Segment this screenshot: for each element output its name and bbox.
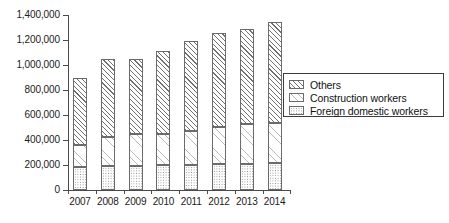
- legend-label: Foreign domestic workers: [310, 105, 428, 117]
- segment-construction-workers: [129, 134, 143, 166]
- segment-others: [73, 78, 87, 145]
- x-axis-tick: [96, 190, 97, 194]
- bar-2009: [129, 15, 143, 190]
- segment-construction-workers: [101, 137, 115, 166]
- bar-2013: [240, 15, 254, 190]
- x-axis-label-2014: 2014: [260, 196, 290, 207]
- y-axis-tick: [63, 140, 68, 141]
- y-axis-tick-label: 800,000: [0, 85, 60, 95]
- segment-foreign-domestic-workers: [268, 163, 282, 190]
- legend-label: Others: [310, 79, 341, 91]
- chart-legend: OthersConstruction workersForeign domest…: [283, 73, 444, 117]
- x-axis-tick: [290, 190, 291, 194]
- bar-2011: [184, 15, 198, 190]
- x-axis-tick: [68, 190, 69, 194]
- y-axis-tick: [63, 65, 68, 66]
- x-axis-label-2010: 2010: [148, 196, 178, 207]
- bar-2008: [101, 15, 115, 190]
- y-axis-tick-label: 400,000: [0, 135, 60, 145]
- segment-foreign-domestic-workers: [101, 166, 115, 190]
- y-axis-tick-label: 1,000,000: [0, 60, 60, 70]
- x-axis-label-2007: 2007: [65, 196, 95, 207]
- segment-construction-workers: [156, 134, 170, 166]
- x-axis-label-2011: 2011: [176, 196, 206, 207]
- segment-others: [129, 59, 143, 134]
- y-axis-tick: [63, 40, 68, 41]
- x-axis-tick: [124, 190, 125, 194]
- bar-2012: [212, 15, 226, 190]
- segment-foreign-domestic-workers: [184, 165, 198, 190]
- y-axis-tick-label: 200,000: [0, 160, 60, 170]
- x-axis-label-2009: 2009: [121, 196, 151, 207]
- segment-construction-workers: [184, 131, 198, 165]
- segment-construction-workers: [73, 145, 87, 167]
- segment-construction-workers: [212, 127, 226, 164]
- segment-foreign-domestic-workers: [73, 167, 87, 190]
- segment-others: [240, 29, 254, 124]
- segment-construction-workers: [240, 124, 254, 164]
- x-axis-tick: [235, 190, 236, 194]
- segment-others: [156, 51, 170, 134]
- segment-foreign-domestic-workers: [129, 166, 143, 190]
- y-axis-tick: [63, 15, 68, 16]
- segment-construction-workers: [268, 123, 282, 163]
- legend-swatch-icon: [289, 93, 304, 102]
- y-axis-tick: [63, 115, 68, 116]
- x-axis-tick: [263, 190, 264, 194]
- y-axis-line: [68, 15, 69, 191]
- x-axis-tick: [151, 190, 152, 194]
- segment-foreign-domestic-workers: [156, 165, 170, 190]
- legend-label: Construction workers: [310, 92, 407, 104]
- y-axis-tick-label: 0: [0, 185, 60, 195]
- x-axis-tick: [207, 190, 208, 194]
- segment-others: [212, 33, 226, 127]
- legend-swatch-icon: [289, 106, 304, 115]
- bar-2010: [156, 15, 170, 190]
- stacked-bar-chart: 0200,000400,000600,000800,0001,000,0001,…: [0, 0, 449, 223]
- y-axis-tick: [63, 165, 68, 166]
- y-axis-tick-label: 600,000: [0, 110, 60, 120]
- segment-others: [268, 22, 282, 123]
- segment-others: [184, 41, 198, 131]
- segment-foreign-domestic-workers: [240, 164, 254, 191]
- segment-others: [101, 59, 115, 137]
- y-axis-tick-label: 1,200,000: [0, 35, 60, 45]
- x-axis-label-2008: 2008: [93, 196, 123, 207]
- bar-2014: [268, 15, 282, 190]
- y-axis-tick-label: 1,400,000: [0, 10, 60, 20]
- x-axis-tick: [179, 190, 180, 194]
- segment-foreign-domestic-workers: [212, 164, 226, 190]
- legend-swatch-icon: [289, 80, 304, 89]
- x-axis-label-2012: 2012: [204, 196, 234, 207]
- bar-2007: [73, 15, 87, 190]
- y-axis-tick: [63, 90, 68, 91]
- x-axis-label-2013: 2013: [232, 196, 262, 207]
